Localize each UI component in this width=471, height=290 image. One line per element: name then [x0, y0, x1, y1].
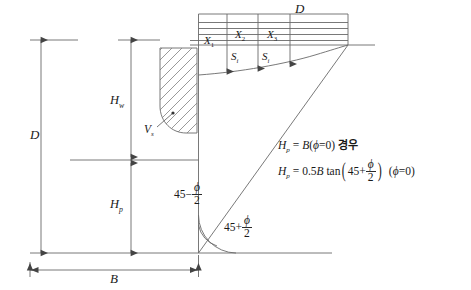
equation-line-1: Hp = B(ϕ=0) 경우 — [278, 140, 358, 152]
diagram-root: D D Hw Hp B X1 X2 X3 Si Si Vs 45−ϕ2 45+ϕ… — [0, 0, 471, 290]
label-angle-upper: 45−ϕ2 — [174, 183, 202, 207]
label-hp: Hp — [110, 198, 123, 211]
label-si-2-sub: i — [268, 57, 270, 64]
eq2-cond-close: ) — [411, 165, 415, 177]
eq1-lhs-sub: p — [286, 146, 290, 154]
label-x1-main: X — [204, 34, 211, 46]
label-depth-top-right: D — [295, 2, 304, 15]
label-angle-upper-den: 2 — [192, 195, 202, 207]
label-x3-sub: 3 — [274, 35, 277, 42]
eq2-condition: (ϕ=0) — [389, 165, 415, 177]
label-x3-main: X — [267, 28, 274, 40]
label-vs-main: V — [144, 123, 151, 135]
label-hw-main: H — [110, 93, 119, 107]
label-hp-sub: p — [119, 205, 123, 214]
eq2-b: B — [317, 165, 324, 177]
label-si-2: Si — [262, 51, 269, 62]
label-angle-upper-prefix: 45 — [174, 188, 186, 200]
soil-wedge-outline — [160, 48, 197, 133]
settlement-curve — [199, 45, 349, 75]
eq2-inner-den: 2 — [366, 172, 376, 184]
label-width-b: B — [110, 272, 118, 285]
label-hw: Hw — [110, 94, 124, 107]
eq2-tan: tan — [326, 165, 340, 177]
label-vs: Vs — [144, 124, 154, 136]
label-angle-lower: 45+ϕ2 — [224, 216, 252, 240]
label-angle-upper-fraction: ϕ2 — [192, 182, 202, 206]
label-x2-sub: 2 — [242, 35, 245, 42]
label-hp-main: H — [110, 197, 119, 211]
angle-arc-upper — [199, 225, 218, 246]
eq2-lhs-sub: p — [286, 172, 290, 180]
label-angle-lower-prefix: 45 — [224, 221, 236, 233]
label-x3: X3 — [267, 29, 277, 40]
label-angle-lower-den: 2 — [242, 228, 252, 240]
equation-line-2: Hp = 0.5B tan(45+ϕ2) (ϕ=0) — [278, 160, 415, 184]
eq2-equals: = — [293, 165, 300, 177]
label-x1-sub: 1 — [211, 41, 214, 48]
eq1-paren-close: ) — [331, 139, 335, 151]
label-si-1: Si — [231, 51, 238, 62]
figure-linework — [0, 0, 471, 290]
label-angle-lower-fraction: ϕ2 — [242, 215, 252, 239]
eq2-inner-fraction: ϕ2 — [366, 159, 376, 183]
eq1-equals: = — [293, 139, 300, 151]
eq1-note: 경우 — [338, 139, 358, 152]
label-depth-left: D — [30, 128, 39, 141]
eq2-paren-close: ) — [377, 160, 381, 182]
label-x1: X1 — [204, 35, 214, 46]
label-x2-main: X — [235, 28, 242, 40]
label-vs-sub: s — [151, 130, 154, 138]
eq2-paren-open: ( — [342, 160, 346, 182]
label-hw-sub: w — [119, 101, 124, 110]
eq2-inner-prefix: 45 — [348, 165, 360, 177]
label-x2: X2 — [235, 29, 245, 40]
soil-wedge-hatching — [140, 0, 215, 210]
eq2-coefficient: 0.5 — [302, 165, 316, 177]
label-si-1-sub: i — [237, 57, 239, 64]
